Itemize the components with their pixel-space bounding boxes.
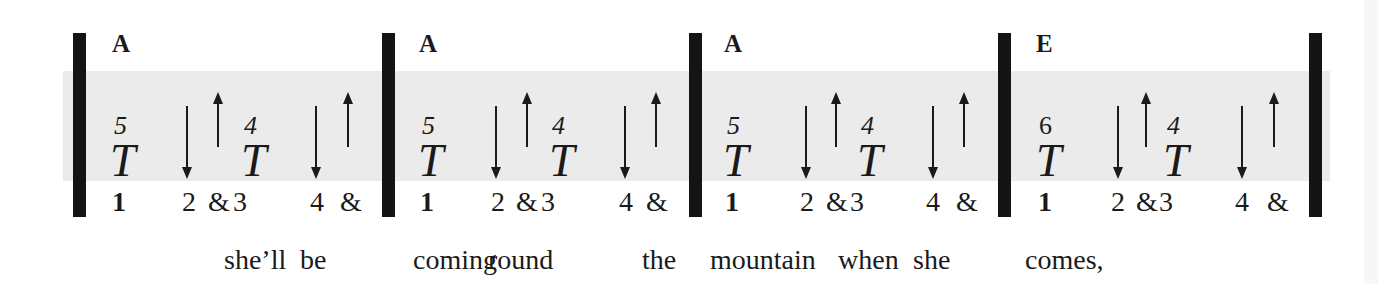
down-arrow-icon [490, 106, 502, 179]
chord-label: E [1036, 31, 1053, 56]
beat-count: 3 [233, 188, 247, 216]
lyric-word: the [642, 246, 676, 274]
lyric-word: mountain [710, 246, 816, 274]
lyric-word: coming [413, 246, 497, 274]
beat-count: 3 [541, 188, 555, 216]
beat-count: & [340, 188, 362, 216]
up-arrow-icon [521, 92, 533, 147]
chord-label: A [112, 31, 130, 56]
down-arrow-icon [927, 106, 939, 179]
final-bar-line [1309, 33, 1322, 217]
up-arrow-icon [1268, 92, 1280, 147]
beat-count: 2 [491, 188, 505, 216]
up-arrow-icon [1140, 92, 1152, 147]
measure-2: A 5 T 1 2 & 4 T 3 4 & [382, 0, 691, 284]
measure-4: E 6 T 1 2 & 4 T 3 4 & [998, 0, 1307, 284]
thumb-strum-symbol: T [857, 138, 883, 184]
down-arrow-icon [1112, 106, 1124, 179]
up-arrow-icon [958, 92, 970, 147]
thumb-strum-symbol: T [418, 138, 444, 184]
up-arrow-icon [830, 92, 842, 147]
beat-count: & [1136, 188, 1158, 216]
thumb-strum-symbol: T [1163, 138, 1189, 184]
beat-count: 1 [420, 188, 434, 216]
beat-count: & [826, 188, 848, 216]
thumb-strum-symbol: T [110, 138, 136, 184]
down-arrow-icon [181, 106, 193, 179]
beat-count: 1 [112, 188, 126, 216]
beat-count: 2 [800, 188, 814, 216]
beat-count: 3 [850, 188, 864, 216]
measure-1: A 5 T 1 2 & 4 T 3 4 & [73, 0, 382, 284]
beat-count: & [208, 188, 230, 216]
beat-count: 3 [1159, 188, 1173, 216]
lyric-word: comes, [1025, 246, 1104, 274]
thumb-strum-symbol: T [1036, 138, 1062, 184]
beat-count: 2 [1111, 188, 1125, 216]
beat-count: & [646, 188, 668, 216]
beat-count: 4 [310, 188, 324, 216]
lyric-word: round [488, 246, 553, 274]
beat-count: & [956, 188, 978, 216]
down-arrow-icon [1236, 106, 1248, 179]
up-arrow-icon [212, 92, 224, 147]
lyric-word: she [913, 246, 950, 274]
down-arrow-icon [310, 106, 322, 179]
beat-count: 2 [182, 188, 196, 216]
measure-3: A 5 T 1 2 & 4 T 3 4 & [689, 0, 998, 284]
beat-count: 4 [619, 188, 633, 216]
lyric-word: when [838, 246, 899, 274]
down-arrow-icon [619, 106, 631, 179]
thumb-strum-symbol: T [549, 138, 575, 184]
chord-label: A [724, 31, 742, 56]
page-edge [1364, 0, 1378, 284]
beat-count: 1 [725, 188, 739, 216]
beat-count: & [516, 188, 538, 216]
strum-pattern-sheet: A 5 T 1 2 & 4 T 3 4 & A 5 T 1 2 & 4 T 3 … [0, 0, 1378, 284]
beat-count: 4 [926, 188, 940, 216]
thumb-strum-symbol: T [723, 138, 749, 184]
thumb-strum-symbol: T [241, 138, 267, 184]
up-arrow-icon [650, 92, 662, 147]
down-arrow-icon [800, 106, 812, 179]
beat-count: 1 [1038, 188, 1052, 216]
beat-count: & [1267, 188, 1289, 216]
lyric-word: she’ll [224, 246, 286, 274]
up-arrow-icon [342, 92, 354, 147]
lyric-word: be [300, 246, 326, 274]
beat-count: 4 [1235, 188, 1249, 216]
chord-label: A [419, 31, 437, 56]
